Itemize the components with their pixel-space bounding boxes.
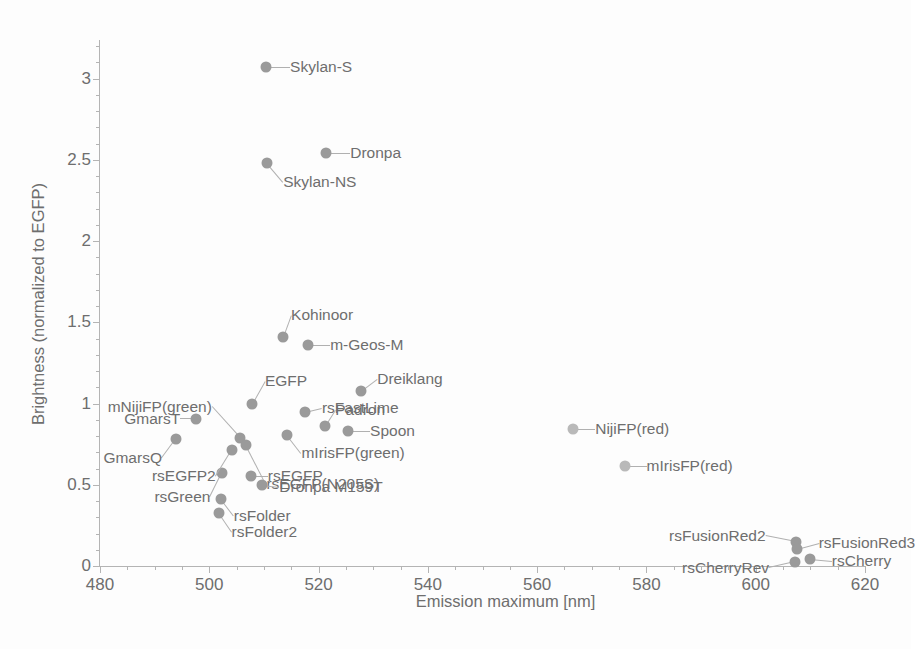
data-point[interactable] [191, 413, 202, 424]
y-tick-minor [96, 387, 100, 388]
x-tick-label: 500 [195, 576, 223, 593]
y-tick-label: 3 [82, 70, 91, 87]
data-point[interactable] [170, 434, 181, 445]
y-tick-major [93, 566, 100, 567]
x-tick-minor [264, 566, 265, 570]
y-tick-minor [96, 95, 100, 96]
x-tick-minor [291, 566, 292, 570]
data-point[interactable] [321, 148, 332, 159]
y-tick-minor [96, 290, 100, 291]
data-point[interactable] [619, 461, 630, 472]
x-axis-label: Emission maximum [nm] [0, 592, 911, 611]
y-tick-minor [96, 225, 100, 226]
x-tick-minor [182, 566, 183, 570]
y-tick-label: 0.5 [67, 476, 91, 493]
data-point[interactable] [226, 444, 237, 455]
x-tick-minor [373, 566, 374, 570]
data-point-label: NijiFP(red) [595, 421, 669, 437]
y-tick-minor [96, 501, 100, 502]
y-tick-minor [96, 371, 100, 372]
data-point[interactable] [261, 62, 272, 73]
data-point-label: rsCherry [832, 553, 891, 569]
data-point[interactable] [241, 439, 252, 450]
y-tick-minor [96, 111, 100, 112]
data-point-label: rsCherryRev [682, 560, 769, 576]
data-point-label: GmarsT [124, 411, 180, 427]
x-tick-major [428, 566, 429, 573]
data-point[interactable] [343, 426, 354, 437]
data-point-label: Kohinoor [291, 307, 353, 323]
x-axis-label-text: Emission maximum [nm] [416, 592, 596, 610]
y-axis-label: Brightness (normalized to EGFP) [29, 182, 48, 424]
x-tick-minor [237, 566, 238, 570]
y-tick-label: 0 [82, 557, 91, 574]
y-tick-minor [96, 452, 100, 453]
data-point[interactable] [215, 494, 226, 505]
data-point-label: EGFP [265, 373, 307, 389]
y-tick-minor [96, 534, 100, 535]
x-tick-minor [592, 566, 593, 570]
data-point-label: Padron [335, 402, 385, 418]
y-tick-major [93, 322, 100, 323]
x-tick-minor [483, 566, 484, 570]
data-point[interactable] [245, 470, 256, 481]
x-tick-minor [510, 566, 511, 570]
data-point-label: rsFolder2 [232, 524, 297, 540]
data-point-label: Dronpa M159T [279, 479, 382, 495]
x-tick-label: 620 [851, 576, 879, 593]
x-tick-label: 540 [414, 576, 442, 593]
y-tick-minor [96, 355, 100, 356]
data-point-label: Dreiklang [377, 371, 442, 387]
data-point[interactable] [278, 331, 289, 342]
y-tick-minor [96, 257, 100, 258]
data-point-label: Dronpa [350, 145, 401, 161]
x-tick-minor [127, 566, 128, 570]
data-point[interactable] [257, 479, 268, 490]
data-point[interactable] [262, 158, 273, 169]
data-point[interactable] [804, 553, 815, 564]
data-point[interactable] [790, 556, 801, 567]
y-tick-minor [96, 144, 100, 145]
data-point[interactable] [303, 340, 314, 351]
y-tick-minor [96, 274, 100, 275]
data-point-label: rsGreen [154, 489, 210, 505]
data-point-label: mIrisFP(green) [301, 445, 404, 461]
data-point[interactable] [213, 508, 224, 519]
y-tick-minor [96, 517, 100, 518]
x-tick-minor [619, 566, 620, 570]
y-tick-minor [96, 420, 100, 421]
data-point-label: rsFusionRed3 [819, 535, 915, 551]
y-tick-minor [96, 469, 100, 470]
data-point[interactable] [791, 543, 802, 554]
data-point[interactable] [568, 423, 579, 434]
data-point[interactable] [356, 386, 367, 397]
y-tick-major [93, 404, 100, 405]
data-point-label: rsFolder [234, 508, 291, 524]
x-tick-minor [455, 566, 456, 570]
x-tick-major [537, 566, 538, 573]
data-point-label: Skylan-NS [283, 174, 356, 190]
data-point-label: rsFusionRed2 [669, 528, 766, 544]
data-point[interactable] [282, 430, 293, 441]
y-tick-minor [96, 127, 100, 128]
data-point[interactable] [299, 407, 310, 418]
y-tick-minor [96, 339, 100, 340]
x-tick-label: 520 [304, 576, 332, 593]
data-point-label: Skylan-S [290, 59, 352, 75]
y-tick-minor [96, 550, 100, 551]
y-tick-minor [96, 176, 100, 177]
x-tick-minor [783, 566, 784, 570]
y-tick-label: 1.5 [67, 313, 91, 330]
y-tick-minor [96, 209, 100, 210]
x-tick-major [646, 566, 647, 573]
data-point-label: rsEGFP2 [152, 468, 216, 484]
y-tick-minor [96, 62, 100, 63]
data-point-label: m-Geos-M [330, 337, 403, 353]
data-point-label: mIrisFP(red) [647, 458, 733, 474]
data-point[interactable] [320, 421, 331, 432]
data-point-label: GmarsQ [103, 450, 162, 466]
y-tick-minor [96, 436, 100, 437]
data-point[interactable] [246, 398, 257, 409]
y-axis-label-wrapper: Brightness (normalized to EGFP) [28, 40, 48, 567]
